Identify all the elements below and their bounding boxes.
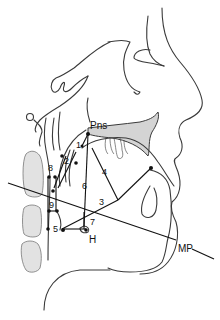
- point-5b: [61, 228, 65, 232]
- point-hyoid: [84, 228, 88, 232]
- pharynx-line: [59, 112, 61, 150]
- point-8c: [51, 189, 55, 193]
- label-landmark-2: 2: [64, 156, 69, 166]
- nasal-contour: [147, 16, 164, 66]
- ear-rod-ring: [27, 114, 34, 121]
- orbit-contour: [108, 41, 140, 95]
- label-mp: MP: [178, 243, 193, 254]
- larynx-arc: [44, 270, 110, 310]
- point-8a: [47, 175, 51, 179]
- vertebra-c4: [21, 241, 41, 272]
- label-landmark-1: 1: [76, 140, 81, 150]
- label-landmark-3: 3: [99, 197, 104, 207]
- tongue-dorsum: [82, 137, 174, 186]
- posterior-nasopharynx: [87, 98, 90, 122]
- vertebra-c2: [23, 151, 43, 197]
- point-5a: [46, 227, 50, 231]
- point-2b: [74, 161, 78, 165]
- vertebra-c3: [23, 205, 42, 237]
- posterior-pharyngeal-wall: [45, 118, 51, 260]
- label-hyoid: H: [89, 234, 96, 245]
- soft-palate-wall: [53, 118, 55, 150]
- pns-vertical-line: [84, 134, 88, 226]
- label-landmark-8: 8: [48, 163, 53, 173]
- mastoid-contour: [34, 120, 42, 146]
- mp-label-tail: [192, 249, 214, 259]
- label-landmark-4: 4: [102, 167, 107, 177]
- cranial-base: [51, 42, 110, 92]
- lower-incisor: [141, 186, 156, 217]
- label-landmark-7: 7: [90, 217, 95, 227]
- cephalometric-diagram: Pns H MP 1 2 3 4 5 6 7 8 9: [0, 0, 220, 320]
- point-8b: [53, 175, 57, 179]
- mandible-outline: [108, 170, 171, 272]
- label-landmark-5: 5: [53, 224, 58, 234]
- label-landmark-6: 6: [82, 181, 87, 191]
- line-incisor-to-3: [118, 168, 151, 200]
- label-landmark-9: 9: [49, 200, 54, 210]
- label-pns: Pns: [90, 120, 107, 131]
- point-incisor: [149, 166, 153, 170]
- point-9b: [55, 209, 59, 213]
- point-pns: [86, 132, 90, 136]
